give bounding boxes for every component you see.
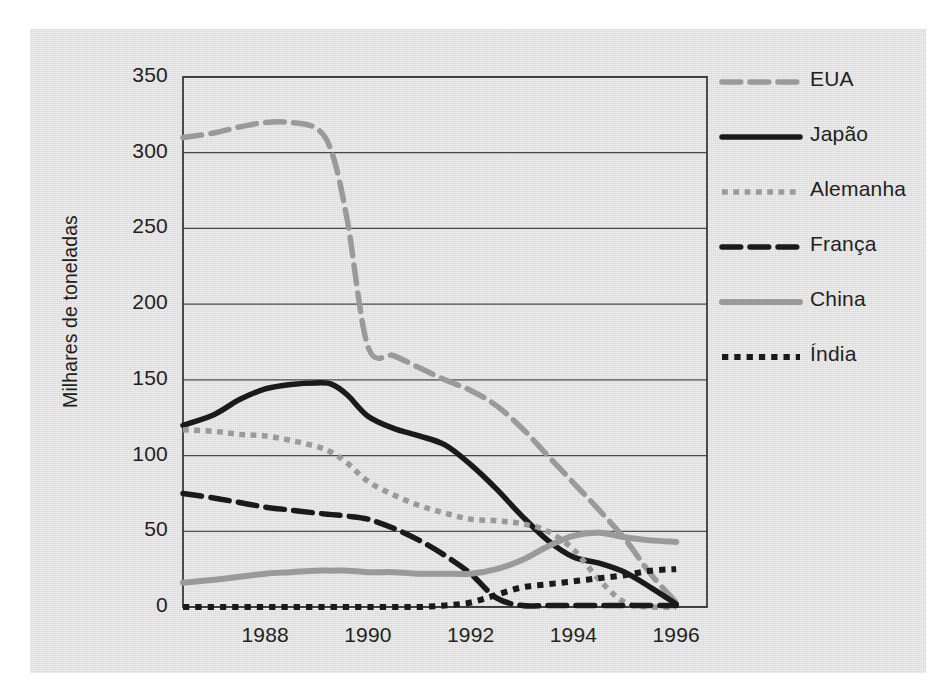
y-tick-label: 300: [58, 139, 168, 163]
legend-label-alemanha: Alemanha: [810, 177, 906, 201]
legend-label-ndia: Índia: [810, 342, 857, 366]
y-tick-label: 50: [58, 517, 168, 541]
x-tick-label: 1996: [626, 623, 726, 647]
x-tick-label: 1994: [523, 623, 623, 647]
plot-canvas: [0, 0, 949, 689]
y-tick-label: 0: [58, 593, 168, 617]
legend-label-china: China: [810, 287, 866, 311]
plot-frame: [183, 77, 707, 607]
y-tick-label: 100: [58, 442, 168, 466]
figure-root: 350300250200150100500 198819901992199419…: [0, 0, 949, 689]
legend-label-frana: França: [810, 232, 877, 256]
gridlines: [183, 77, 707, 607]
x-tick-label: 1990: [318, 623, 418, 647]
x-tick-label: 1988: [215, 623, 315, 647]
series-layer: [183, 122, 676, 608]
legend-label-eua: EUA: [810, 67, 854, 91]
x-tick-label: 1992: [421, 623, 521, 647]
legend-label-japo: Japão: [810, 122, 868, 146]
y-axis-title: Milhares de toneladas: [59, 197, 82, 427]
y-tick-label: 350: [58, 63, 168, 87]
